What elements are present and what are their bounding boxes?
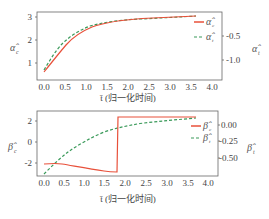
top-ytick-right-neg10: -1.0 bbox=[226, 55, 241, 65]
top-x-ticks: 0.0 0.5 1.0 1.5 2.0 2.5 3.0 3.5 4.0 bbox=[38, 82, 218, 92]
svg-text:0.0: 0.0 bbox=[38, 82, 50, 92]
top-chart: 3 2 1 -0.5 -1.0 0.0 0.5 1.0 1.5 2.0 2.5 … bbox=[10, 12, 261, 103]
bottom-y-axis-label: β̂ c bbox=[7, 141, 17, 154]
bottom-series-beta-t-dashed bbox=[44, 118, 196, 174]
svg-text:0.00: 0.00 bbox=[221, 120, 237, 130]
top-y-right-ticks: -0.5 -1.0 bbox=[222, 31, 241, 65]
svg-text:1.0: 1.0 bbox=[78, 178, 90, 188]
svg-text:c: c bbox=[209, 127, 212, 132]
svg-text:c: c bbox=[14, 148, 17, 154]
svg-text:c: c bbox=[212, 23, 215, 28]
svg-text:1.5: 1.5 bbox=[98, 178, 110, 188]
top-y-axis-label: α̂ c bbox=[10, 42, 19, 55]
top-series-alpha-t-dashed bbox=[44, 16, 196, 70]
bottom-y-right-ticks: 0.00 -0.25 -0.50 bbox=[218, 120, 238, 163]
bottom-chart: 2 0 -2 0.00 -0.25 -0.50 0.0 0.5 1.0 1.5 … bbox=[7, 111, 256, 204]
top-ytick-3: 3 bbox=[28, 12, 33, 22]
top-x-axis-label: t̄ (归一化时间) bbox=[99, 92, 156, 103]
svg-text:2.5: 2.5 bbox=[140, 178, 152, 188]
svg-text:3.0: 3.0 bbox=[164, 82, 176, 92]
top-y-right-axis-label: α̂ t bbox=[252, 43, 261, 56]
bottom-legend: β̂ c β̂ t bbox=[191, 120, 212, 144]
top-legend: α̂ c α̂ t bbox=[194, 16, 215, 43]
svg-text:2.5: 2.5 bbox=[143, 82, 155, 92]
svg-text:-0.25: -0.25 bbox=[219, 136, 238, 146]
svg-text:1.5: 1.5 bbox=[101, 82, 113, 92]
svg-text:3.5: 3.5 bbox=[185, 82, 197, 92]
svg-text:2.0: 2.0 bbox=[122, 82, 134, 92]
svg-text:-0.50: -0.50 bbox=[219, 153, 238, 163]
svg-text:3.0: 3.0 bbox=[161, 178, 173, 188]
bottom-x-axis-label: t̄ (归一化时间) bbox=[99, 193, 156, 204]
svg-text:-2: -2 bbox=[25, 158, 33, 168]
svg-text:t: t bbox=[258, 50, 260, 56]
svg-text:0.5: 0.5 bbox=[58, 178, 70, 188]
svg-text:2: 2 bbox=[28, 116, 33, 126]
bottom-plot-frame bbox=[37, 111, 218, 176]
bottom-x-ticks: 0.0 0.5 1.0 1.5 2.0 2.5 3.0 3.5 4.0 bbox=[38, 178, 214, 188]
svg-text:4.0: 4.0 bbox=[202, 178, 214, 188]
svg-text:t: t bbox=[209, 139, 211, 144]
svg-text:2.0: 2.0 bbox=[119, 178, 131, 188]
top-y-ticks: 3 2 1 bbox=[28, 12, 38, 68]
svg-text:c: c bbox=[16, 49, 19, 55]
bottom-y-right-axis-label: β̂ t bbox=[246, 142, 256, 155]
top-ytick-2: 2 bbox=[28, 35, 33, 45]
svg-text:t: t bbox=[212, 38, 214, 43]
top-series-alpha-c-solid bbox=[44, 16, 196, 72]
svg-text:t: t bbox=[253, 149, 255, 155]
svg-text:4.0: 4.0 bbox=[206, 82, 218, 92]
bottom-series-beta-c-solid bbox=[44, 117, 196, 172]
svg-text:α̂: α̂ bbox=[206, 31, 215, 42]
svg-text:α̂: α̂ bbox=[252, 43, 261, 54]
svg-text:3.5: 3.5 bbox=[182, 178, 194, 188]
svg-text:β̂: β̂ bbox=[202, 132, 212, 143]
svg-text:0: 0 bbox=[28, 137, 33, 147]
bottom-y-ticks: 2 0 -2 bbox=[25, 116, 38, 168]
top-ytick-right-neg05: -0.5 bbox=[226, 31, 241, 41]
svg-text:0.0: 0.0 bbox=[38, 178, 50, 188]
svg-text:0.5: 0.5 bbox=[59, 82, 71, 92]
figure: 3 2 1 -0.5 -1.0 0.0 0.5 1.0 1.5 2.0 2.5 … bbox=[0, 0, 269, 219]
top-ytick-1: 1 bbox=[28, 58, 33, 68]
svg-text:1.0: 1.0 bbox=[80, 82, 92, 92]
